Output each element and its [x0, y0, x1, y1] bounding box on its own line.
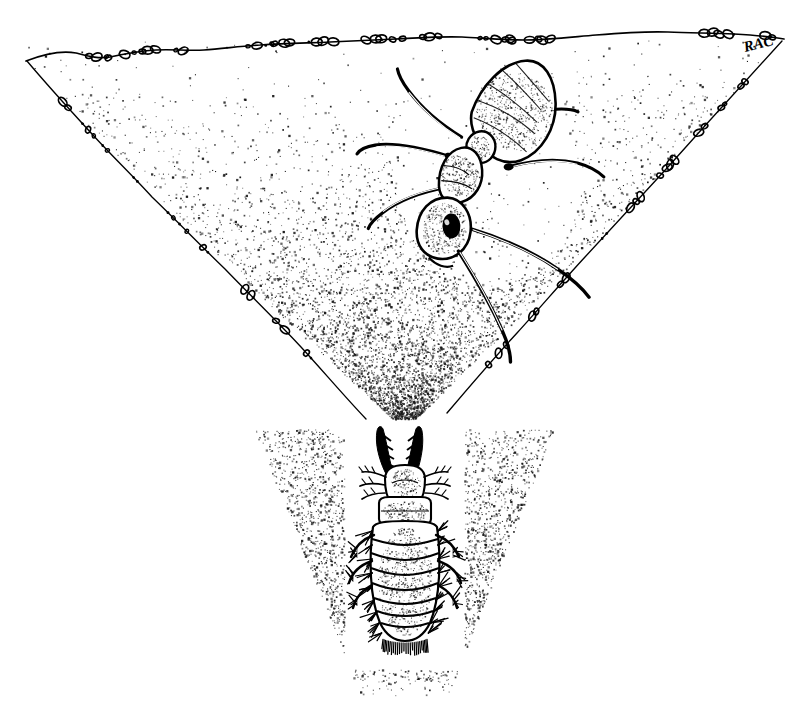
antlion-abdomen: [371, 521, 440, 641]
antlion-pit-illustration: RAC: [0, 0, 811, 715]
surface-sand-grain: [104, 54, 109, 59]
surface-sand-grain: [132, 51, 137, 55]
illustration-canvas: Antlion pit trap with ant prey: [0, 0, 811, 715]
